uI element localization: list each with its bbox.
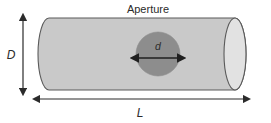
page-title: Aperture: [127, 3, 169, 15]
aperture-circle: [136, 32, 180, 76]
cylinder-body-group: [38, 18, 246, 90]
cylinder-end-face: [224, 18, 246, 90]
diagram-canvas: Aperture D L d: [0, 0, 271, 123]
aperture-tube-diagram: Aperture D L d: [0, 0, 271, 123]
length-dimension-label: L: [137, 106, 144, 120]
height-dimension-group: D: [7, 20, 23, 89]
height-dimension-label: D: [7, 48, 16, 62]
length-dimension-group: L: [39, 99, 244, 120]
